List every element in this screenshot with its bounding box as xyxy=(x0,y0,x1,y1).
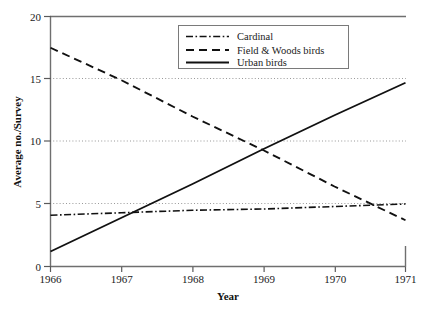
y-tick-label-10: 10 xyxy=(30,135,42,147)
x-tick-label-1969: 1969 xyxy=(253,273,276,285)
x-tick-label-1967: 1967 xyxy=(111,273,134,285)
y-axis-title: Average no./Survey xyxy=(11,96,23,188)
chart-canvas: 20 15 10 5 0 1966 1967 1968 1969 1970 19… xyxy=(0,0,426,311)
y-tick-label-20: 20 xyxy=(30,11,42,23)
y-tick-label-0: 0 xyxy=(36,261,42,273)
y-tick-label-5: 5 xyxy=(36,198,42,210)
x-tick-label-1970: 1970 xyxy=(324,273,347,285)
x-tick-label-1968: 1968 xyxy=(182,273,205,285)
y-tick-label-15: 15 xyxy=(30,73,42,85)
x-axis-title: Year xyxy=(217,290,239,302)
legend-label-field-and-woods-birds: Field & Woods birds xyxy=(237,45,324,56)
line-chart-figure: 20 15 10 5 0 1966 1967 1968 1969 1970 19… xyxy=(0,0,426,311)
legend-label-urban-birds: Urban birds xyxy=(237,57,287,68)
x-tick-label-1971: 1971 xyxy=(395,273,417,285)
x-tick-label-1966: 1966 xyxy=(40,273,63,285)
chart-legend: Cardinal Field & Woods birds Urban birds xyxy=(179,26,349,69)
legend-label-cardinal: Cardinal xyxy=(237,31,273,42)
